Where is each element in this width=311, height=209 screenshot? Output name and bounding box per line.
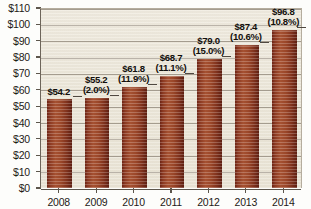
y-axis-label: $20 — [0, 149, 30, 161]
bar — [235, 45, 260, 188]
y-axis-label: $0 — [0, 182, 30, 194]
x-axis-tick — [208, 188, 209, 193]
label-leader-line — [110, 95, 119, 96]
gridline — [41, 9, 301, 10]
x-axis-label: 2008 — [47, 196, 70, 208]
y-axis-label: $50 — [0, 100, 30, 112]
bar-value-label: $54.2 — [47, 86, 70, 97]
bar-value-label: $87.4 — [235, 21, 258, 32]
bar-chart: $0$10$20$30$40$50$60$70$80$90$100$110 20… — [0, 0, 311, 209]
y-axis-label: $90 — [0, 35, 30, 47]
x-axis-label: 2010 — [122, 196, 145, 208]
y-axis-label: $40 — [0, 117, 30, 129]
gridline — [41, 25, 301, 26]
x-axis-tick — [96, 188, 97, 193]
bar-data-label: $79.0(15.0%) — [193, 36, 225, 57]
bar-data-label: $96.8(10.8%) — [268, 7, 300, 28]
y-axis-label: $60 — [0, 84, 30, 96]
label-leader-line — [73, 96, 82, 97]
bar-data-label: $54.2 — [47, 87, 70, 98]
bar — [122, 87, 147, 188]
y-axis-label: $80 — [0, 51, 30, 63]
bar-growth-label: (15.0%) — [193, 46, 225, 57]
x-axis-tick — [170, 188, 171, 193]
x-axis-label: 2012 — [197, 196, 220, 208]
y-axis-label: $70 — [0, 67, 30, 79]
label-leader-line — [222, 56, 231, 57]
x-axis-tick — [283, 188, 284, 193]
bar-growth-label: (2.0%) — [83, 85, 109, 96]
label-leader-line — [148, 84, 157, 85]
bar — [272, 30, 297, 188]
x-axis-tick — [58, 188, 59, 193]
plot-area — [40, 8, 302, 188]
bar-value-label: $79.0 — [197, 35, 220, 46]
y-axis-label: $110 — [0, 2, 30, 14]
y-axis-label: $100 — [0, 18, 30, 30]
x-axis-label: 2009 — [85, 196, 108, 208]
bar — [47, 99, 72, 188]
y-axis-label: $30 — [0, 133, 30, 145]
label-leader-line — [297, 27, 306, 28]
x-axis-tick — [133, 188, 134, 193]
x-axis-tick — [245, 188, 246, 193]
y-axis-label: $10 — [0, 166, 30, 178]
bar-growth-label: (10.8%) — [268, 17, 300, 28]
x-axis-label: 2011 — [160, 196, 182, 208]
label-leader-line — [185, 73, 194, 74]
bar — [85, 98, 110, 188]
bar-growth-label: (11.9%) — [118, 74, 149, 85]
bar-growth-label: (10.6%) — [230, 32, 262, 43]
bar — [197, 59, 222, 188]
bar-data-label: $55.2(2.0%) — [83, 75, 109, 96]
bar-value-label: $68.7 — [160, 52, 183, 63]
label-leader-line — [260, 42, 269, 43]
bar-value-label: $96.8 — [272, 6, 295, 17]
bar-value-label: $61.8 — [122, 63, 145, 74]
x-axis-label: 2014 — [272, 196, 295, 208]
bar-growth-label: (11.1%) — [156, 63, 187, 74]
bar-data-label: $68.7(11.1%) — [156, 53, 187, 74]
bar-data-label: $87.4(10.6%) — [230, 22, 262, 43]
bar — [160, 76, 185, 188]
bar-value-label: $55.2 — [85, 74, 108, 85]
x-axis-label: 2013 — [235, 196, 258, 208]
bar-data-label: $61.8(11.9%) — [118, 64, 149, 85]
